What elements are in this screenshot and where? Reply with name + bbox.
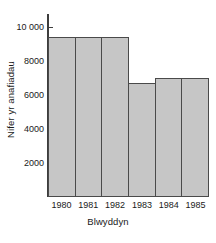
bar (75, 37, 103, 197)
x-axis-tick-labels: 198019811982198319841985 (48, 200, 209, 211)
bar (101, 37, 129, 197)
bar (48, 37, 76, 197)
x-axis-title: Blwyddyn (0, 216, 216, 227)
x-axis-tick-label: 1985 (182, 200, 209, 211)
y-axis-tick-label: 2000 (16, 159, 44, 168)
bar-chart: Nifer yr anafiadau 200040006000800010 00… (0, 0, 216, 243)
y-axis-tick-label: 8000 (16, 57, 44, 66)
y-axis-tick-label: 10 000 (16, 23, 44, 32)
y-axis-title-text: Nifer yr anafiadau (5, 61, 16, 138)
x-axis-tick-label: 1982 (102, 200, 129, 211)
y-axis-tick-label: 4000 (16, 125, 44, 134)
x-axis-tick-label: 1983 (128, 200, 155, 211)
x-axis-tick-label: 1980 (48, 200, 75, 211)
bar (128, 83, 156, 197)
x-axis-title-text: Blwyddyn (87, 216, 128, 227)
bar (155, 78, 183, 197)
x-axis-tick-label: 1981 (75, 200, 102, 211)
y-axis-tick-label: 6000 (16, 91, 44, 100)
x-axis-tick-label: 1984 (155, 200, 182, 211)
plot-area (47, 14, 209, 197)
y-axis-tick-labels: 200040006000800010 000 (16, 0, 44, 243)
bar (181, 78, 209, 197)
bar-series (48, 14, 209, 197)
